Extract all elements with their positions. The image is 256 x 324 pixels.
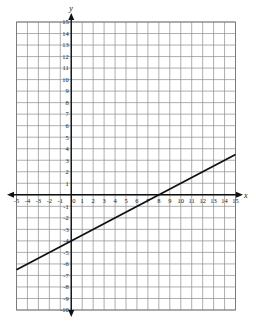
x-tick-label: 15 xyxy=(232,197,239,204)
y-tick-label: -1 xyxy=(63,203,68,210)
y-tick-label: -5 xyxy=(63,249,68,256)
x-tick-label: 10 xyxy=(178,197,185,204)
x-tick-label: 12 xyxy=(199,197,206,204)
x-tick-labels: -5-4-3-2-10123456789101112131415 xyxy=(14,197,239,204)
grid-lines xyxy=(17,22,236,310)
x-tick-label: 5 xyxy=(124,197,127,204)
x-tick-label: 8 xyxy=(157,197,160,204)
y-tick-label: 12 xyxy=(62,53,69,60)
x-tick-label: -1 xyxy=(58,197,63,204)
y-tick-label: -6 xyxy=(63,260,69,267)
y-tick-label: 5 xyxy=(66,134,69,141)
y-tick-label: 10 xyxy=(62,76,69,83)
y-tick-label: -8 xyxy=(63,283,68,290)
y-tick-label: 14 xyxy=(62,30,69,37)
x-tick-label: -5 xyxy=(14,197,19,204)
x-tick-label: -2 xyxy=(47,197,52,204)
y-axis-label: y xyxy=(68,4,73,13)
y-axis-arrow-up-icon xyxy=(68,13,74,20)
y-tick-label: 2 xyxy=(66,168,69,175)
y-tick-label: -7 xyxy=(63,272,69,279)
x-tick-label: -4 xyxy=(25,197,31,204)
x-axis-label: x xyxy=(243,191,248,200)
y-tick-label: 1 xyxy=(66,180,69,187)
x-tick-label: 1 xyxy=(81,197,84,204)
x-tick-label: 3 xyxy=(102,197,105,204)
y-tick-label: 9 xyxy=(66,87,69,94)
y-tick-label: -3 xyxy=(63,226,68,233)
y-tick-label: -10 xyxy=(60,306,69,313)
x-tick-label: 14 xyxy=(221,197,228,204)
x-tick-label: -3 xyxy=(36,197,41,204)
x-tick-label: 2 xyxy=(92,197,95,204)
y-tick-labels: 151413121110987654321-1-2-3-4-5-6-7-8-9-… xyxy=(60,18,69,313)
y-tick-label: 8 xyxy=(66,99,69,106)
coordinate-plane: -5-4-3-2-10123456789101112131415 1514131… xyxy=(0,0,256,324)
y-tick-label: 15 xyxy=(62,18,69,25)
x-tick-label: 13 xyxy=(210,197,217,204)
y-axis-arrow-down-icon xyxy=(68,310,74,317)
x-tick-label: 11 xyxy=(189,197,195,204)
y-tick-label: 11 xyxy=(62,64,68,71)
y-tick-label: 13 xyxy=(62,41,69,48)
y-tick-label: -9 xyxy=(63,295,68,302)
x-tick-label: 6 xyxy=(135,197,139,204)
y-tick-label: 3 xyxy=(66,157,69,164)
x-tick-label: 0 xyxy=(72,197,75,204)
x-tick-label: 4 xyxy=(113,197,117,204)
y-tick-label: -2 xyxy=(63,214,68,221)
axes xyxy=(7,13,243,317)
x-tick-label: 9 xyxy=(168,197,171,204)
